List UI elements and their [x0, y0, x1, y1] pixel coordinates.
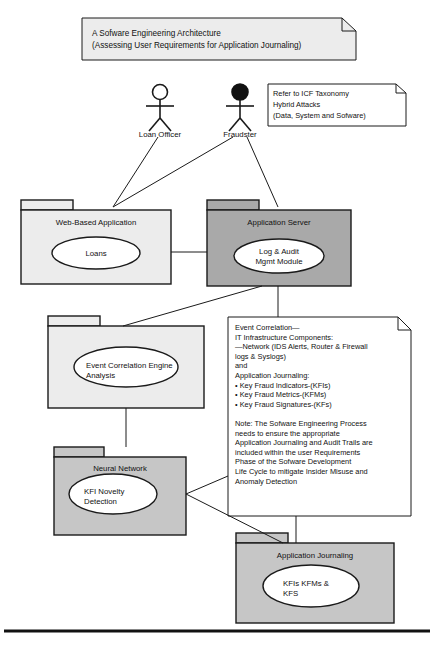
- detail-note-line-16: Anomaly Detection: [235, 477, 410, 487]
- actor-label-fraudster: Fraudster: [205, 130, 275, 139]
- actor-fraudster[interactable]: [226, 84, 254, 131]
- actor-label-loan-officer: Loan Officer: [125, 130, 195, 139]
- detail-note-text: Event Correlation—IT Infrastructure Comp…: [235, 323, 410, 486]
- detail-note-line-2: —Network (IDS Alerts, Router & Firewall: [235, 342, 410, 352]
- package-application-journaling[interactable]: [236, 533, 394, 623]
- element-label-ece-2: Analysis: [86, 371, 115, 381]
- package-title-neural-network: Neural Network: [54, 464, 186, 473]
- detail-note-line-13: included within the user Requirements: [235, 448, 410, 458]
- title-note-line-1: A Sofware Engineering Architecture: [92, 28, 221, 39]
- element-label-loans: Loans: [52, 249, 140, 259]
- package-title-application-server: Application Server: [207, 218, 351, 227]
- detail-note-line-1: IT Infrastructure Components:: [235, 333, 410, 343]
- detail-note-line-9: [235, 409, 410, 419]
- package-title-application-journaling: Application Journaling: [236, 551, 394, 560]
- detail-note-line-15: Life Cycle to mitigate Insider Misuse an…: [235, 467, 410, 477]
- element-label-kfi-novelty-2: Detection: [84, 497, 117, 507]
- detail-note-line-6: • Key Fraud Indicators-(KFIs): [235, 381, 410, 391]
- detail-note-line-5: Application Journaling:: [235, 371, 410, 381]
- taxonomy-note-line-1: Refer to ICF Taxonomy: [273, 89, 349, 99]
- actor-loan-officer[interactable]: [146, 85, 174, 132]
- connector-neuralnetwork-note: [186, 476, 228, 494]
- detail-note-line-12: Application Journaling and Audit Trails …: [235, 438, 410, 448]
- taxonomy-note-line-2: Hybrid Attacks: [273, 100, 320, 110]
- detail-note-line-7: • Key Fraud Metrics-(KFMs): [235, 390, 410, 400]
- detail-note-line-3: logs & Syslogs): [235, 352, 410, 362]
- title-note-line-2: (Assessing User Requirements for Applica…: [92, 40, 301, 51]
- actor-connectors: [113, 137, 278, 207]
- taxonomy-note-line-3: (Data, System and Sofware): [273, 111, 366, 121]
- detail-note-line-10: Note: The Sofware Engineering Process: [235, 419, 410, 429]
- detail-note-line-0: Event Correlation—: [235, 323, 410, 333]
- element-label-log-audit-1: Log & Audit: [234, 247, 324, 257]
- element-label-ece-1: Event Correlation Engine: [86, 361, 173, 371]
- detail-note-line-4: and: [235, 361, 410, 371]
- element-label-log-audit-2: Mgmt Module: [234, 257, 324, 267]
- title-note: [82, 18, 356, 60]
- element-label-kfis-kfms-2: KFS: [283, 589, 298, 599]
- element-label-kfi-novelty-1: KFI Novelty: [84, 487, 124, 497]
- diagram-canvas: A Sofware Engineering Architecture (Asse…: [0, 0, 434, 650]
- detail-note-line-14: Phase of the Sofware Development: [235, 457, 410, 467]
- package-web-based-application[interactable]: [21, 200, 171, 284]
- package-title-web-based-application: Web-Based Application: [21, 218, 171, 227]
- detail-note-line-8: • Key Fraud Signatures-(KFs): [235, 400, 410, 410]
- element-label-kfis-kfms-1: KFIs KFMs &: [283, 579, 329, 589]
- package-application-server[interactable]: [207, 200, 351, 286]
- detail-note-line-11: needs to ensure the appropriate: [235, 429, 410, 439]
